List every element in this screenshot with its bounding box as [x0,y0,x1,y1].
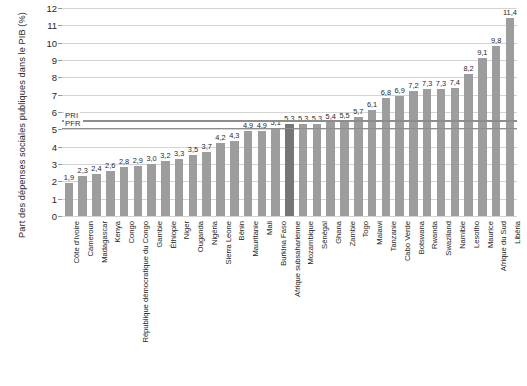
bar-value-label: 9,1 [477,48,487,57]
y-tick-label: 1 [52,193,57,204]
bar-item: 5,1 [269,8,283,216]
bar-value-label: 2,3 [78,166,88,175]
bar [175,159,184,216]
y-axis-title: Part des dépenses sociales publiques dan… [17,0,27,260]
bar [437,89,446,216]
plot-area: 0123456789101112 PRIPFR 1,92,32,42,62,82… [62,8,517,217]
bar [313,124,322,216]
bar [478,58,487,216]
bar [395,96,404,216]
bar [134,166,143,216]
bar-value-label: 2,9 [133,156,143,165]
bar [202,152,211,216]
bar-value-label: 7,4 [450,78,460,87]
bar [299,124,308,216]
bar-item: 5,5 [338,8,352,216]
y-tick-label: 12 [46,3,57,14]
y-tick-label: 7 [52,89,57,100]
x-tick: Botswana [407,221,421,381]
x-tick: Bénin [227,221,241,381]
bar-item: 6,1 [365,8,379,216]
bar-item: 9,1 [475,8,489,216]
bar-item: 4,9 [241,8,255,216]
x-tick: Congo [117,221,131,381]
bar [382,98,391,216]
x-tick: Burkina Faso [269,221,283,381]
x-tick: Éthiopie [158,221,172,381]
x-tick: Cabo Verde [393,221,407,381]
y-tick-label: 4 [52,141,57,152]
bar [492,46,501,216]
bar-item: 11,4 [503,8,517,216]
bar-item: 8,2 [462,8,476,216]
bar-value-label: 6,1 [367,100,377,109]
bar-value-label: 5,7 [353,107,363,116]
bar-item: 4,9 [255,8,269,216]
bar-item: 7,3 [434,8,448,216]
y-tick-label: 2 [52,176,57,187]
y-tick-label: 8 [52,72,57,83]
bar [78,176,87,216]
x-tick: Sénégal [310,221,324,381]
x-tick: Afrique du Sud [489,221,503,381]
x-tick: Afrique subsaharienne [283,221,297,381]
bar-series: 1,92,32,42,62,82,93,03,23,33,53,74,24,34… [62,8,517,216]
bar-value-label: 3,0 [146,154,156,163]
bar-value-label: 7,3 [436,79,446,88]
bar [423,89,432,216]
reference-line-pri [62,120,517,121]
x-tick: Togo [351,221,365,381]
bar-item: 3,0 [145,8,159,216]
bar-value-label: 4,3 [229,131,239,140]
x-tick: Mauritanie [241,221,255,381]
bar [147,164,156,216]
bar-value-label: 9,8 [491,36,501,45]
x-tick: Mozambique [296,221,310,381]
x-tick: Kenya [103,221,117,381]
bar [409,91,418,216]
bar [92,174,101,216]
x-tick: Libéria [503,221,517,381]
bar-item: 5,3 [310,8,324,216]
bar [451,88,460,216]
bar [189,155,198,216]
x-tick: Zambie [338,221,352,381]
x-tick: Ghana [324,221,338,381]
bar-value-label: 11,4 [503,8,517,17]
x-tick: Namibie [448,221,462,381]
reference-line-label-pfr: PFR [64,119,83,128]
bar-value-label: 2,6 [105,161,115,170]
y-tick-label: 3 [52,159,57,170]
bar-value-label: 5,5 [339,111,349,120]
bar-item: 4,2 [214,8,228,216]
bar-value-label: 3,2 [160,151,170,160]
bar [65,183,74,216]
bar-value-label: 6,8 [381,88,391,97]
gridline [62,216,517,217]
chart-figure: Part des dépenses sociales publiques dan… [0,0,527,386]
bar [230,141,239,216]
x-tick: Madagascar [90,221,104,381]
bar-value-label: 2,4 [91,164,101,173]
bar-value-label: 4,2 [215,133,225,142]
x-tick: Ouganda [186,221,200,381]
bar-value-label: 6,9 [395,86,405,95]
x-tick: Maurice [475,221,489,381]
x-axis-labels: Côte d'IvoireCamerounMadagascarKenyaCong… [62,221,517,381]
bar [464,74,473,216]
x-tick: Lesotho [462,221,476,381]
bar-value-label: 5,3 [312,114,322,123]
bar-item: 4,3 [227,8,241,216]
bar [506,18,515,216]
y-tick-label: 9 [52,55,57,66]
bar-item: 5,3 [296,8,310,216]
bar [244,131,253,216]
x-tick-label: Libéria [513,221,522,244]
bar-item: 3,7 [200,8,214,216]
x-tick: Swaziland [434,221,448,381]
bar-value-label: 5,1 [270,118,280,127]
y-tick-label: 0 [52,211,57,222]
bar-item: 3,2 [158,8,172,216]
bar-item: 6,8 [379,8,393,216]
bar-value-label: 1,9 [64,173,74,182]
